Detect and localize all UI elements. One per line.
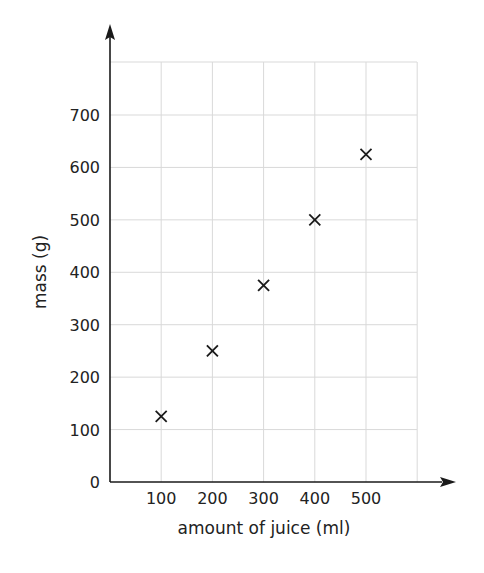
- x-tick-label: 500: [351, 489, 382, 508]
- y-tick-label: 300: [69, 316, 100, 335]
- y-tick-label: 0: [90, 473, 100, 492]
- y-axis-label: mass (g): [30, 235, 50, 309]
- x-tick-label: 400: [300, 489, 331, 508]
- x-axis-label: amount of juice (ml): [178, 518, 351, 538]
- axes: [105, 24, 456, 487]
- x-tick-label: 200: [197, 489, 228, 508]
- grid-lines: [110, 62, 417, 482]
- y-tick-label: 500: [69, 211, 100, 230]
- y-tick-label: 400: [69, 263, 100, 282]
- y-tick-label: 600: [69, 158, 100, 177]
- x-tick-label: 100: [146, 489, 177, 508]
- x-axis-arrow-icon: [440, 477, 456, 487]
- y-tick-label: 700: [69, 106, 100, 125]
- y-tick-label: 200: [69, 368, 100, 387]
- x-tick-labels: 100200300400500: [146, 489, 381, 508]
- y-tick-label: 100: [69, 421, 100, 440]
- x-tick-label: 300: [248, 489, 279, 508]
- y-tick-labels: 0100200300400500600700: [69, 106, 100, 492]
- scatter-chart: 0100200300400500600700 100200300400500 a…: [0, 0, 484, 573]
